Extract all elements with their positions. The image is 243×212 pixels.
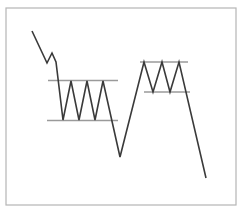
chart-container [0, 0, 243, 212]
chart-background [0, 0, 243, 212]
price-chart [0, 0, 243, 212]
